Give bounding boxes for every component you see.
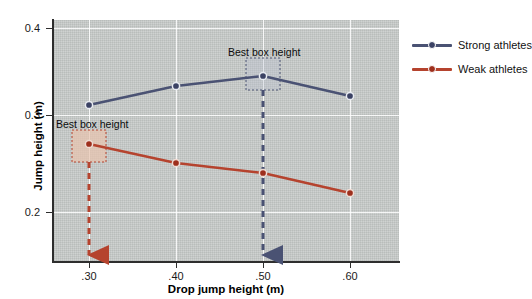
data-point-strong-30 xyxy=(85,101,92,108)
legend-marker-strong xyxy=(428,41,436,49)
annotation-label-strong: Best box height xyxy=(228,46,300,58)
data-point-weak-50 xyxy=(259,169,266,176)
legend-label-strong-athletes: Strong athletes xyxy=(458,39,532,51)
data-point-weak-40 xyxy=(172,159,179,166)
series-line-strong-athletes xyxy=(89,76,350,105)
legend-marker-weak xyxy=(428,65,436,73)
annotation-label-weak: Best box height xyxy=(56,118,128,130)
data-point-strong-40 xyxy=(172,82,179,89)
legend-label-weak-athletes: Weak athletes xyxy=(458,63,528,75)
legend-swatch-weak-athletes xyxy=(412,63,452,75)
legend-item-weak-athletes[interactable]: Weak athletes xyxy=(412,57,517,81)
legend: Strong athletes Weak athletes xyxy=(412,33,517,81)
legend-item-strong-athletes[interactable]: Strong athletes xyxy=(412,33,517,57)
data-point-weak-60 xyxy=(346,189,353,196)
data-point-strong-60 xyxy=(346,92,353,99)
series-line-weak-athletes xyxy=(89,144,350,193)
data-point-weak-30 xyxy=(85,140,92,147)
legend-swatch-strong-athletes xyxy=(412,39,452,51)
data-point-strong-50 xyxy=(259,72,266,79)
